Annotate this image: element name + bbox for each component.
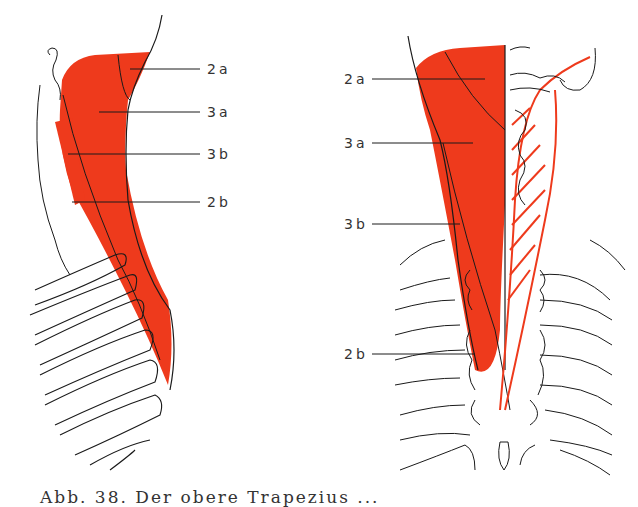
label-right-3a: 3a [344, 136, 368, 150]
label-left-3b: 3b [207, 147, 231, 161]
label-left-2a: 2a [207, 62, 231, 76]
label-left-2b: 2b [207, 195, 231, 209]
left-illustration [30, 15, 200, 470]
label-right-2a: 2a [344, 72, 368, 86]
label-left-3a: 3a [207, 105, 231, 119]
right-illustration [372, 36, 625, 475]
label-right-3b: 3b [344, 217, 368, 231]
figure-caption: Abb. 38. Der obere Trapezius ... [40, 487, 380, 507]
label-right-2b: 2b [344, 347, 368, 361]
